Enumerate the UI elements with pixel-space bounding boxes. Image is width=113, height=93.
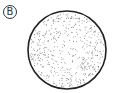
- circle-outline: [28, 11, 106, 89]
- stippled-circle: [0, 0, 113, 93]
